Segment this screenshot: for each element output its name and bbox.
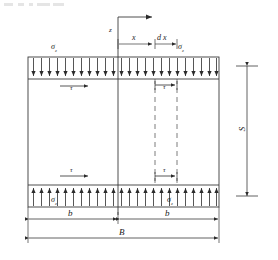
figure-canvas: z x d x σz σz σz σz τ τ τ τ b b B S: [0, 0, 278, 260]
tau-top-left-label: τ: [70, 84, 73, 92]
plate-outline: [28, 57, 219, 207]
sigma-bottom-left-subscript: z: [55, 201, 57, 206]
sigma-bottom-right-label: σz: [167, 195, 173, 206]
dimension-x-dx: [118, 39, 177, 49]
sigma-z-bottom-arrows: [34, 188, 217, 206]
plate-frame: [28, 57, 219, 207]
sigma-top-left-subscript: z: [55, 48, 57, 53]
dimension-b-B: [28, 207, 219, 243]
dx-element-dashed-lines: [155, 79, 177, 185]
sigma-bottom-right-subscript: z: [171, 201, 173, 206]
sigma-top-right-subscript: z: [182, 48, 184, 53]
sigma-top-right-label: σz: [178, 42, 184, 53]
dim-B-label: B: [119, 227, 125, 237]
tau-shear-arrows: [60, 81, 177, 181]
tau-top-right-label: τ: [163, 83, 166, 91]
sigma-bottom-left-label: σz: [51, 195, 57, 206]
tau-bottom-left-label: τ: [70, 166, 73, 174]
dim-b-right-label: b: [165, 208, 170, 218]
dim-b-left-label: b: [68, 208, 73, 218]
sigma-top-left-label: σz: [51, 42, 57, 53]
x-dimension-label: x: [132, 33, 136, 42]
z-axis-label: z: [109, 26, 112, 34]
tau-bottom-right-label: τ: [163, 166, 166, 174]
dim-S-label: S: [237, 127, 247, 132]
sigma-z-top-arrows: [34, 58, 217, 76]
top-caption-strip: [4, 3, 64, 6]
dx-dimension-label: d x: [157, 33, 167, 42]
